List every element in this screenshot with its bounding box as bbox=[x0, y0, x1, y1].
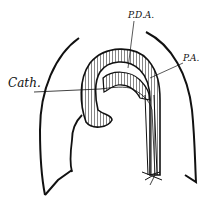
label-pa: P.A. bbox=[183, 53, 199, 63]
label-cath: Cath. bbox=[8, 76, 41, 90]
label-pda: P.D.A. bbox=[128, 10, 154, 20]
left-lung-outline bbox=[40, 38, 79, 195]
heart-left-border bbox=[71, 115, 83, 172]
aortic-arch bbox=[81, 49, 160, 175]
anatomy-diagram bbox=[0, 0, 214, 207]
left-lung-lower bbox=[45, 170, 72, 195]
